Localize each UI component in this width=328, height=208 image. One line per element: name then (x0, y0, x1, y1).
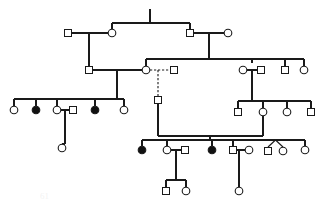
generation-3-left-group (10, 99, 128, 152)
adopted-child-union-group (155, 97, 264, 141)
symbol-female-affected[interactable] (32, 106, 40, 114)
symbol-male-unaffected[interactable] (308, 109, 315, 116)
symbol-female-affected[interactable] (208, 146, 216, 154)
symbol-female-unaffected[interactable] (163, 146, 171, 154)
symbol-female-affected[interactable] (91, 106, 99, 114)
generation-1-group (65, 9, 232, 70)
symbol-female-unaffected[interactable] (10, 106, 18, 114)
twin-leg-right-line (276, 140, 284, 147)
generation-3-right-group (235, 101, 315, 116)
symbol-male-unaffected[interactable] (282, 67, 289, 74)
symbol-female-unaffected[interactable] (182, 187, 190, 195)
symbol-female-unaffected[interactable] (239, 66, 247, 74)
symbol-female-affected[interactable] (138, 146, 146, 154)
symbol-male-unaffected[interactable] (235, 109, 242, 116)
symbol-male-unaffected[interactable] (70, 107, 77, 114)
twin-leg-left-line (268, 140, 276, 147)
generation-4-group (138, 140, 309, 187)
symbol-female-unaffected[interactable] (259, 108, 267, 116)
symbol-female-unaffected[interactable] (300, 66, 308, 74)
symbol-female-unaffected[interactable] (53, 106, 61, 114)
symbol-female-unaffected[interactable] (283, 108, 291, 116)
pedigree-canvas (0, 0, 328, 208)
symbol-female-unaffected[interactable] (224, 29, 232, 37)
symbol-male-unaffected[interactable] (187, 30, 194, 37)
symbol-female-unaffected-twin[interactable] (279, 147, 287, 155)
symbol-male-unaffected-twin[interactable] (265, 148, 272, 155)
symbol-male-unaffected[interactable] (86, 67, 93, 74)
pedigree-chart: 61 (0, 0, 328, 208)
symbol-male-unaffected[interactable] (65, 30, 72, 37)
symbol-female-unaffected[interactable] (108, 29, 116, 37)
generation-5-group (163, 180, 243, 195)
generation-2-group (86, 59, 308, 101)
symbol-male-unaffected[interactable] (182, 147, 189, 154)
symbol-female-unaffected[interactable] (301, 146, 309, 154)
symbol-female-unaffected[interactable] (58, 144, 66, 152)
symbol-male-unaffected[interactable] (163, 188, 170, 195)
symbol-male-unaffected-adopted[interactable] (155, 97, 162, 104)
symbol-female-unaffected[interactable] (142, 66, 150, 74)
symbol-female-unaffected[interactable] (235, 187, 243, 195)
symbol-female-unaffected[interactable] (245, 146, 253, 154)
symbol-male-unaffected[interactable] (171, 67, 178, 74)
symbol-female-unaffected[interactable] (120, 106, 128, 114)
symbol-male-unaffected[interactable] (258, 67, 265, 74)
scan-artifact-text: 61 (40, 191, 49, 201)
symbol-male-unaffected[interactable] (230, 147, 237, 154)
